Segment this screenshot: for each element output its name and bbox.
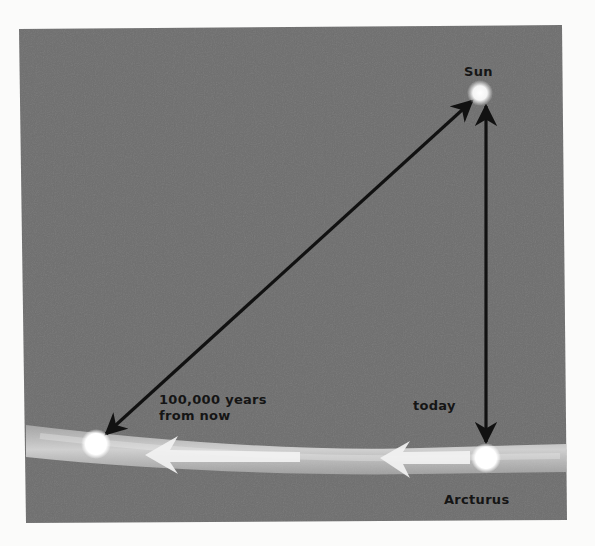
future-position-label: 100,000 years from now <box>159 392 299 424</box>
today-label: today <box>413 398 456 414</box>
future-label-line-2: from now <box>159 408 299 424</box>
future-label-line-1: 100,000 years <box>159 392 299 408</box>
arcturus-today-star-icon <box>471 443 501 473</box>
arcturus-label: Arcturus <box>444 492 509 508</box>
sun-label: Sun <box>464 64 493 80</box>
diagram-canvas <box>0 0 595 546</box>
diagram-stage: Sun 100,000 years from now today Arcturu… <box>0 0 595 546</box>
arcturus-future-star-icon <box>81 429 111 459</box>
sun-star-icon <box>467 80 493 106</box>
